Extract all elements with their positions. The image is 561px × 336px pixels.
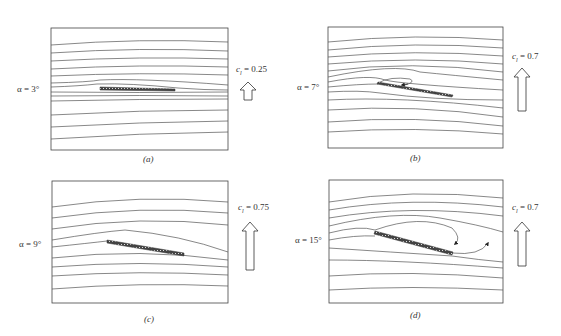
flow-diagram <box>0 0 561 336</box>
flat-plate <box>100 87 175 91</box>
lift-arrow-icon <box>514 222 530 266</box>
cl-label-a: cl = 0.25 <box>236 64 267 76</box>
panel-b <box>328 27 530 148</box>
caption-b: (b) <box>410 153 421 163</box>
lift-arrow-icon <box>514 68 530 111</box>
caption-c: (c) <box>144 314 154 324</box>
alpha-label-b: α = 7° <box>297 82 319 92</box>
panel-a <box>51 28 256 150</box>
panel-d <box>329 180 530 303</box>
cl-label-d: cl = 0.7 <box>512 202 539 214</box>
lift-arrow-icon <box>242 222 258 270</box>
alpha-label-a: α = 3° <box>17 84 39 94</box>
cl-label-b: cl = 0.7 <box>512 51 539 63</box>
flat-plate <box>377 82 453 97</box>
caption-a: (a) <box>143 154 154 164</box>
alpha-label-d: α = 15° <box>295 235 322 245</box>
caption-d: (d) <box>410 310 421 320</box>
lift-arrow-icon <box>240 82 256 100</box>
panel-c <box>52 181 258 303</box>
alpha-label-c: α = 9° <box>19 239 41 249</box>
cl-label-c: cl = 0.75 <box>238 202 269 214</box>
